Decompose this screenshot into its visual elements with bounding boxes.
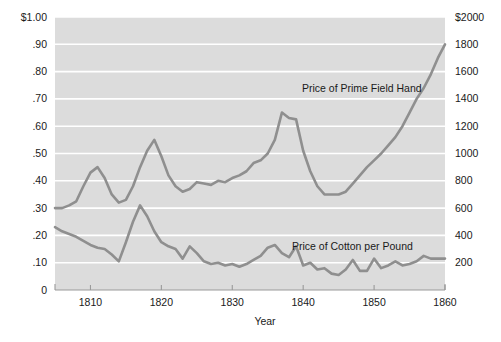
left-axis-tick-label: .70 — [32, 92, 47, 104]
x-axis-tick-label: 1830 — [221, 296, 245, 308]
series-annotation-cotton: Price of Cotton per Pound — [292, 240, 413, 252]
series-annotation-field-hand: Price of Prime Field Hand — [302, 82, 422, 94]
left-axis-tick-label: .40 — [32, 174, 47, 186]
x-axis-tick-label: 1850 — [362, 296, 386, 308]
right-axis-tick-label: 1800 — [455, 38, 479, 50]
x-axis-tick-label: 1820 — [150, 296, 174, 308]
left-axis-tick-label: .50 — [32, 147, 47, 159]
right-axis-tick-label: 1600 — [455, 65, 479, 77]
left-axis-tick-label: .80 — [32, 65, 47, 77]
x-axis-title: Year — [254, 315, 276, 327]
right-axis-tick-label: 400 — [455, 229, 473, 241]
left-axis-tick-label: $1.00 — [21, 11, 47, 23]
right-axis-tick-label: $2000 — [455, 11, 484, 23]
left-axis-tick-label: 0 — [41, 284, 47, 296]
x-axis-tick-label: 1860 — [433, 296, 457, 308]
chart-container: 0.10.20.30.40.50.60.70.80.90$1.00 200400… — [0, 0, 501, 342]
left-axis-tick-label: .10 — [32, 256, 47, 268]
price-trends-line-chart: 0.10.20.30.40.50.60.70.80.90$1.00 200400… — [0, 0, 501, 342]
left-axis-tick-label: .90 — [32, 38, 47, 50]
right-axis-tick-label: 1000 — [455, 147, 479, 159]
right-axis-tick-label: 1200 — [455, 120, 479, 132]
x-axis-tick-label: 1810 — [79, 296, 103, 308]
left-axis-tick-label: .20 — [32, 229, 47, 241]
right-axis-tick-label: 800 — [455, 174, 473, 186]
right-axis-tick-label: 1400 — [455, 92, 479, 104]
x-axis-tick-label: 1840 — [292, 296, 316, 308]
left-axis-tick-label: .30 — [32, 202, 47, 214]
left-axis-tick-labels: 0.10.20.30.40.50.60.70.80.90$1.00 — [21, 11, 47, 296]
right-axis-tick-label: 200 — [455, 256, 473, 268]
x-axis-tick-labels: 181018201830184018501860 — [79, 296, 457, 308]
right-axis-tick-labels: 20040060080010001200140016001800$2000 — [455, 11, 484, 269]
right-axis-tick-label: 600 — [455, 202, 473, 214]
left-axis-tick-label: .60 — [32, 120, 47, 132]
